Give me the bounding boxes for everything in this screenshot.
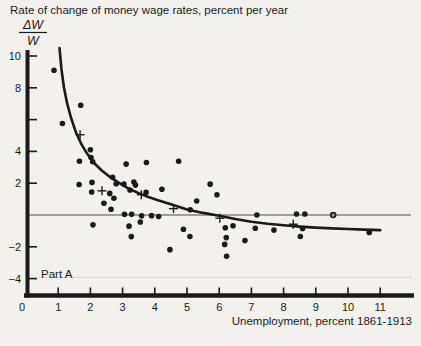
phillips-curve-figure: Rate of change of money wage rates, perc… <box>0 0 421 346</box>
fitted-curve <box>60 48 381 230</box>
x-axis-ticks: 01234567891011 <box>19 288 386 314</box>
x-tick-label: 1 <box>55 301 61 313</box>
y-tick-label: 2 <box>15 177 21 189</box>
data-point-dot <box>224 254 230 260</box>
x-tick-label: 5 <box>184 301 190 313</box>
data-point-dot <box>133 182 139 188</box>
data-point-dot <box>77 158 83 164</box>
data-point-dot <box>88 147 94 153</box>
data-point-dot <box>90 222 96 228</box>
data-point-dot <box>242 238 248 244</box>
data-point-dot <box>139 213 145 219</box>
data-point-dot <box>126 223 132 229</box>
data-point-dot <box>107 191 113 197</box>
data-point-dot <box>111 196 117 202</box>
y-tick-label: −4 <box>8 273 21 285</box>
x-tick-label: 0 <box>19 301 25 313</box>
x-tick-label: 11 <box>374 301 385 313</box>
data-point-dot <box>129 212 135 218</box>
data-point-dot <box>156 214 162 220</box>
fraction-numerator: ΔW <box>22 18 44 32</box>
fraction-denominator: W <box>27 34 40 48</box>
data-point-dot <box>294 211 300 217</box>
part-label: Part A <box>41 268 73 280</box>
data-point-dot <box>207 181 213 187</box>
data-point-dot <box>128 234 134 240</box>
data-point-dot <box>122 211 128 217</box>
data-point-dot <box>149 213 155 219</box>
data-point-dot <box>271 227 277 233</box>
x-tick-label: 4 <box>152 301 158 313</box>
chart-title: Rate of change of money wage rates, perc… <box>10 4 288 16</box>
data-point-dot <box>159 186 165 192</box>
x-tick-label: 8 <box>281 301 287 313</box>
x-axis-label: Unemployment, percent 1861-1913 <box>232 315 412 327</box>
data-point-dot <box>223 225 229 231</box>
data-point-dot <box>187 234 193 240</box>
data-point-dot <box>254 212 260 218</box>
y-tick-label: −2 <box>8 241 21 253</box>
data-point-dot <box>108 206 114 212</box>
data-point-dot <box>101 200 107 206</box>
data-point-dot <box>138 219 144 225</box>
data-point-dot <box>222 242 228 248</box>
interval-mean-crosses <box>76 130 298 229</box>
y-tick-label: 8 <box>15 82 21 94</box>
data-point-dot <box>167 247 173 253</box>
data-point-dot <box>89 189 95 195</box>
scatter-dots <box>51 68 372 260</box>
data-point-dot <box>302 211 308 217</box>
data-point-dot <box>89 180 95 186</box>
x-tick-label: 7 <box>248 301 254 313</box>
y-tick-label: 4 <box>15 145 21 157</box>
data-point-dot <box>144 160 150 166</box>
y-tick-label: 10 <box>9 50 21 62</box>
data-point-dot <box>51 68 57 74</box>
y-axis-unit-fraction: ΔW W <box>19 18 47 48</box>
chart-canvas: Rate of change of money wage rates, perc… <box>0 0 421 346</box>
data-point-dot <box>76 182 82 188</box>
data-point-dot <box>230 223 236 229</box>
x-tick-label: 9 <box>313 301 319 313</box>
data-point-dot <box>176 158 182 164</box>
x-tick-label: 3 <box>120 301 126 313</box>
x-tick-label: 10 <box>342 301 354 313</box>
data-point-dot <box>60 121 66 127</box>
data-point-dot <box>78 102 84 108</box>
data-point-cross <box>97 186 106 195</box>
x-tick-label: 6 <box>216 301 222 313</box>
x-tick-label: 2 <box>87 301 93 313</box>
data-point-dot <box>181 227 187 233</box>
axes <box>24 50 414 298</box>
y-axis-ticks: 10842−2−4 <box>8 50 37 285</box>
data-point-dot <box>214 192 220 198</box>
data-point-dot <box>223 235 229 241</box>
data-point-dot <box>123 161 129 167</box>
data-point-dot <box>298 234 304 240</box>
data-point-dot <box>194 198 200 204</box>
data-point-dot <box>252 225 258 231</box>
